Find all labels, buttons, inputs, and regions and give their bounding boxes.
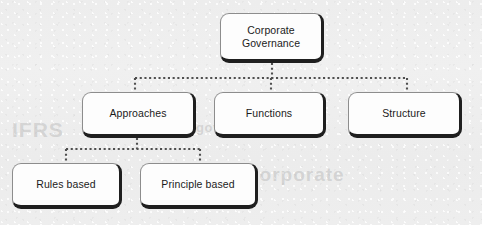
node-label-structure: Structure [378,107,430,120]
node-structure[interactable]: Structure [348,92,462,138]
node-label-rules-based: Rules based [32,178,99,191]
node-corporate-governance[interactable]: Corporate Governance [220,13,324,63]
diagram-page: Session Content IFRS corporate governanc… [0,0,482,225]
node-label-principle-based: Principle based [157,178,238,191]
node-functions[interactable]: Functions [214,92,326,138]
node-approaches[interactable]: Approaches [82,92,196,138]
node-label-functions: Functions [242,107,296,120]
node-rules-based[interactable]: Rules based [12,163,122,209]
node-principle-based[interactable]: Principle based [140,163,258,209]
node-label-approaches: Approaches [105,107,170,120]
node-label-corporate-governance: Corporate Governance [238,24,304,50]
